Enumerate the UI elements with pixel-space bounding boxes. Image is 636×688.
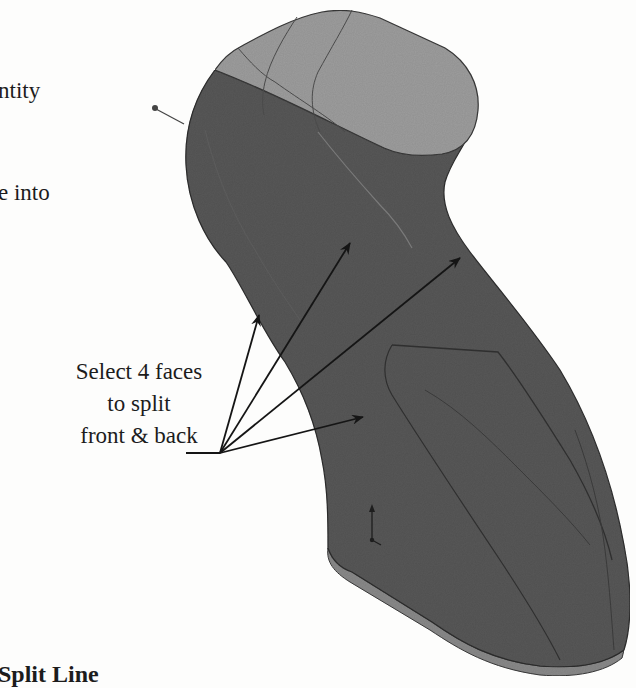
model-body xyxy=(186,70,630,667)
section-heading: Split Line xyxy=(0,660,99,688)
callout-line-1: Select 4 faces xyxy=(60,356,218,388)
select-faces-callout: Select 4 faces to split front & back xyxy=(60,356,218,452)
arrow-to-face-1 xyxy=(220,315,259,453)
callout-line-3: front & back xyxy=(60,420,218,452)
pin-dot-icon xyxy=(152,105,184,124)
callout-line-2: to split xyxy=(60,388,218,420)
